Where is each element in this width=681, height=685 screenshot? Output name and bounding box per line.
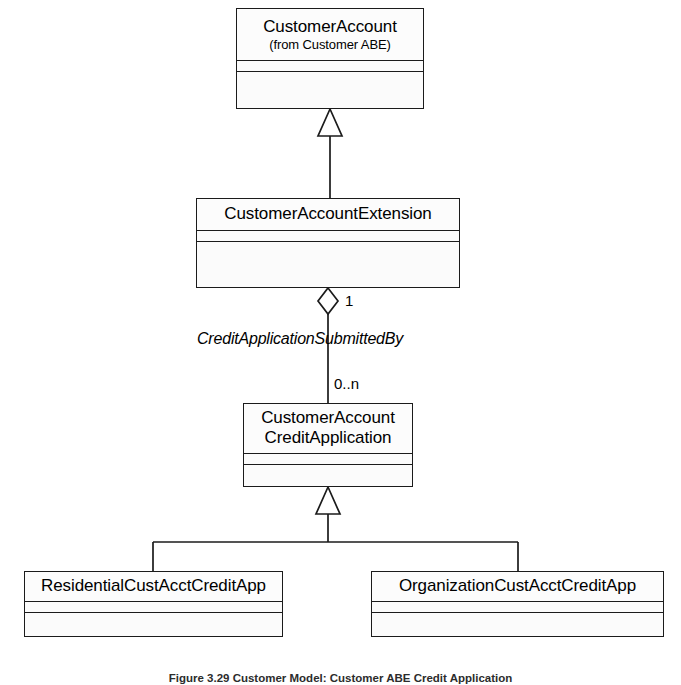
class-name: OrganizationCustAcctCreditApp [399,576,636,596]
attributes-compartment [372,602,663,613]
uml-class-customer-account[interactable]: CustomerAccount (from Customer ABE) [236,8,424,109]
name-compartment: CustomerAccount CreditApplication [244,404,412,454]
operations-compartment [237,72,423,108]
attributes-compartment [25,602,282,613]
attributes-compartment [237,61,423,72]
multiplicity-source: 1 [345,292,353,309]
uml-class-customer-account-credit-application[interactable]: CustomerAccount CreditApplication [243,403,413,487]
generalization-arrowhead-icon [316,487,340,514]
uml-class-residential-cust-acct-credit-app[interactable]: ResidentialCustAcctCreditApp [24,571,283,637]
class-name: CustomerAccountExtension [224,204,431,224]
generalization-extension-to-account [318,109,342,198]
generalization-arrowhead-icon [318,109,342,136]
name-compartment: CustomerAccount (from Customer ABE) [237,9,423,61]
name-compartment: ResidentialCustAcctCreditApp [25,572,282,602]
class-package-label: (from Customer ABE) [269,37,391,52]
class-name: CustomerAccount CreditApplication [261,408,395,448]
operations-compartment [25,613,282,636]
name-compartment: CustomerAccountExtension [197,199,459,231]
operations-compartment [244,465,412,486]
generalization-fork-to-subclasses [153,487,518,571]
figure-caption: Figure 3.29 Customer Model: Customer ABE… [0,671,681,685]
class-name: CustomerAccount [263,17,397,37]
operations-compartment [197,242,459,287]
name-compartment: OrganizationCustAcctCreditApp [372,572,663,602]
attributes-compartment [197,231,459,242]
uml-class-organization-cust-acct-credit-app[interactable]: OrganizationCustAcctCreditApp [371,571,664,637]
aggregation-diamond-icon [318,288,338,314]
attributes-compartment [244,454,412,465]
multiplicity-target: 0..n [334,375,359,392]
association-name-label: CreditApplicationSubmittedBy [197,329,403,348]
operations-compartment [372,613,663,636]
class-name: ResidentialCustAcctCreditApp [41,576,266,596]
uml-class-customer-account-extension[interactable]: CustomerAccountExtension [196,198,460,288]
